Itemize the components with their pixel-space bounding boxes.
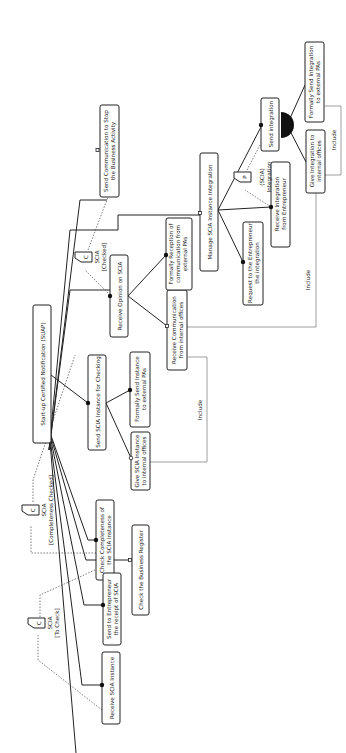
node-manage-integration[interactable]: Manage SCIA Instance Integration [199,153,219,271]
node-receive-comm-internal[interactable]: Receive Communication from internal offi… [166,290,188,370]
node-label: Receive Integration [274,176,281,231]
node-label: to internal offices [141,436,147,485]
node-label: the receipt of SCIA [113,583,120,635]
include-label: Include [197,399,203,420]
node-formally-send-instance[interactable]: Formally Send Instance to external PAs [128,352,150,427]
node-label: to external PAs [315,61,321,103]
artifact-label: [To Check] [54,608,60,637]
node-check-register[interactable]: Check the Business Register [129,525,150,615]
node-label: Check the Business Register [138,530,145,610]
node-request-integration[interactable]: Request to the Entrepreneur the integrat… [241,222,263,305]
artifact-glyph: C [36,621,42,625]
artifact-flows [31,145,271,710]
node-label: Formally Reception of [168,223,175,285]
node-label: from internal offices [178,302,184,358]
artifact-scia-integration[interactable]: P (SCIA) Integration [234,161,273,192]
node-give-scia-internal[interactable]: Give SCIA Instance to internal offices [129,432,150,490]
node-send-stop[interactable]: Send Communication to Stop the Business … [96,105,119,197]
node-receive-opinion[interactable]: Receive Opinion on SCIA [108,255,128,337]
artifact-label: SCIA [94,250,100,263]
node-label: Send integration [268,100,275,147]
node-label: Request to the Entrepreneur [247,222,254,302]
node-send-integration[interactable]: Send integration [259,98,279,151]
artifact-scia-checked[interactable]: C SCIA [Checked] [75,243,107,271]
node-label: internal offices [316,140,322,182]
node-label: Send SCIA Instance for Checking [95,356,102,448]
node-send-receipt[interactable]: Send to Entrepreneur the receipt of SCIA [101,573,121,645]
artifact-label: [Checked] [101,243,107,271]
root-goal[interactable]: Start-up Certified Notification (SUAP) [33,305,51,443]
node-label: to external PAs [141,368,147,410]
node-formally-send-integration[interactable]: Formally Send Integration to external PA… [305,42,324,122]
node-label: Manage SCIA Instance Integration [207,164,214,260]
node-label: Receive SCIA Instance [109,656,115,719]
node-label: Send Communication to Stop [103,110,110,192]
node-label: the Business Activity [110,121,117,180]
node-label: Receive Opinion on SCIA [117,261,124,330]
node-label: communication from [175,225,181,283]
artifact-scia-completeness[interactable]: C SCIA [Completeness Checked] [22,475,55,545]
artifact-scia-to-check[interactable]: C SCIA [To Check] [28,608,60,637]
node-receive-instance[interactable]: Receive SCIA Instance [100,652,120,724]
artifact-label: SCIA [41,503,47,516]
node-label: Receive Communication [171,296,177,364]
artifact-label: (SCIA) [259,168,265,185]
include-label: Include [331,129,337,150]
artifact-label: SCIA [47,616,53,629]
node-formally-reception[interactable]: Formally Reception of communication from… [164,218,192,290]
root-label: Start-up Certified Notification (SUAP) [40,322,47,425]
node-label: the SCIA instance [106,515,112,565]
node-label: Send to Entrepreneur [106,578,113,639]
node-give-integration-internal[interactable]: Give Integration to internal offices [306,130,325,193]
artifact-glyph: C [30,508,36,512]
node-label: Give SCIA Instance [134,434,140,487]
artifact-glyph: C [83,255,89,259]
node-label: Check Completeness of [99,506,106,573]
node-send-checking[interactable]: Send SCIA Instance for Checking [86,355,106,450]
node-label: the integration [254,242,261,284]
include-label: Include [305,269,311,290]
node-label: Formally Send Instance [134,356,141,422]
node-label: external PAs [182,237,188,272]
node-label: Give Integration to [309,134,316,187]
node-check-completeness[interactable]: Check Completeness of the SCIA instance [94,500,114,580]
node-label: Formally Send Integration [308,45,315,118]
node-label: from Entrepreneur [281,177,288,229]
artifact-label: Integration [266,161,273,192]
diagram-canvas: Include Include Include Start-up Certifi… [0,0,346,753]
artifact-label: [Completeness Checked] [48,475,55,545]
